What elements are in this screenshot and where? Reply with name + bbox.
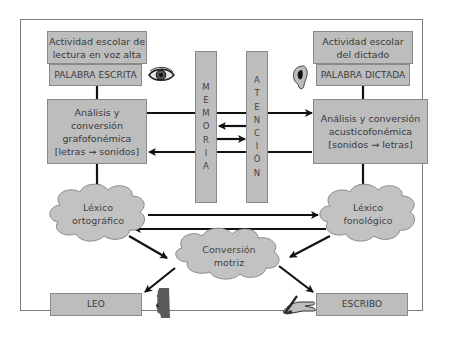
attention-letter: I (256, 140, 259, 153)
graphophonemic-analysis-box: Análisis y conversión grafofonémica [let… (47, 99, 147, 164)
attention-letter: Ó (254, 153, 261, 166)
ear-icon (293, 66, 307, 89)
phonological-line1: Léxico (343, 201, 392, 214)
dictation-activity-line2: del dictado (322, 48, 403, 61)
analysis-left-line3: [letras → sonidos] (48, 145, 146, 158)
reading-activity-line2: lectura en voz alta (49, 48, 145, 61)
arrow-phonological-to-motor (290, 236, 330, 257)
motor-line1: Conversión (202, 243, 255, 256)
attention-column: A T E N C I Ó N (246, 51, 268, 203)
memory-letter: I (205, 147, 208, 160)
memory-letter: E (203, 94, 208, 107)
motor-conversion-label: Conversión motriz (180, 236, 278, 276)
phonological-lexicon-label: Léxico fonológico (322, 194, 414, 234)
escribo-box: ESCRIBO (316, 293, 408, 316)
escribo-label: ESCRIBO (342, 298, 382, 311)
attention-letter: A (254, 74, 260, 87)
writing-hand-icon (283, 296, 315, 314)
mouth-profile-icon (156, 288, 170, 318)
reading-activity-box: Actividad escolar de lectura en voz alta (47, 31, 147, 64)
attention-letter: T (254, 87, 259, 100)
leo-box: LEO (50, 293, 142, 316)
written-word-box: PALABRA ESCRITA (49, 64, 142, 86)
memory-letter: M (202, 81, 209, 94)
motor-line2: motriz (202, 256, 255, 269)
dictated-word-box: PALABRA DICTADA (316, 64, 410, 86)
analysis-left-line1: Análisis y conversión (48, 106, 146, 132)
analysis-left-line2: grafofonémica (48, 132, 146, 145)
dictation-activity-box: Actividad escolar del dictado (313, 31, 413, 64)
orthographic-line2: ortográfico (72, 214, 124, 227)
memory-letter: O (203, 120, 210, 133)
attention-letter: N (254, 114, 260, 127)
memory-letter: M (202, 107, 209, 120)
leo-label: LEO (87, 298, 105, 311)
memory-column: M E M O R I A (195, 51, 217, 203)
analysis-right-line3: [sonidos → letras] (321, 138, 421, 151)
reading-activity-line1: Actividad escolar de (49, 35, 145, 48)
dictated-word-label: PALABRA DICTADA (321, 69, 406, 82)
eye-icon (149, 67, 174, 80)
analysis-right-line1: Análisis y conversión (321, 112, 421, 125)
phonological-line2: fonológico (343, 214, 392, 227)
memory-letter: R (203, 134, 209, 147)
arrow-orthographic-to-motor (129, 236, 167, 258)
memory-letter: A (203, 160, 209, 173)
analysis-right-line2: acusticofonémica (321, 125, 421, 138)
orthographic-lexicon-label: Léxico ortográfico (52, 194, 144, 234)
dictation-activity-line1: Actividad escolar (322, 35, 403, 48)
attention-letter: E (254, 101, 259, 114)
attention-letter: N (254, 167, 260, 180)
attention-letter: C (254, 127, 260, 140)
orthographic-line1: Léxico (72, 201, 124, 214)
written-word-label: PALABRA ESCRITA (54, 69, 137, 82)
acousticophonemic-analysis-box: Análisis y conversión acusticofonémica [… (313, 99, 428, 164)
arrow-motor-to-escribo (279, 266, 313, 292)
